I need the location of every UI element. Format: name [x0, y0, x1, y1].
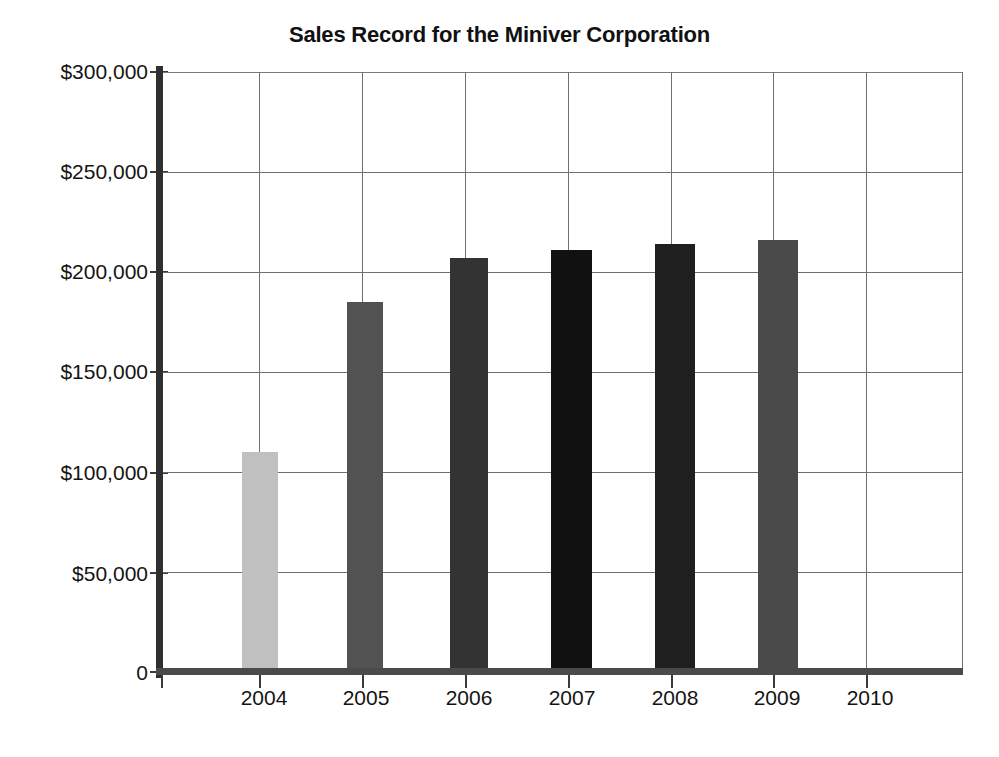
plot-area: [162, 72, 963, 672]
y-tick-label-0: 0: [0, 661, 148, 685]
y-axis-line: [156, 66, 163, 678]
y-axis-labels: $300,000 $250,000 $200,000 $150,000 $100…: [0, 0, 148, 757]
chart-title: Sales Record for the Miniver Corporation: [0, 22, 999, 48]
bar-2006: [450, 258, 488, 672]
gridline-vertical-8: [962, 72, 963, 672]
bar-2005: [347, 302, 383, 672]
bar-2004: [242, 452, 278, 672]
x-tick-label-2007: 2007: [517, 686, 627, 710]
y-tick-label-300000: $300,000: [0, 60, 148, 84]
y-tick-label-150000: $150,000: [0, 360, 148, 384]
y-tick-label-250000: $250,000: [0, 160, 148, 184]
x-tick-label-2005: 2005: [311, 686, 421, 710]
bar-2009: [758, 240, 798, 672]
y-tick-label-50000: $50,000: [0, 562, 148, 586]
bar-2007: [551, 250, 592, 672]
gridline-300000: [162, 72, 963, 73]
x-tick-label-2004: 2004: [209, 686, 319, 710]
gridline-vertical-7: [866, 72, 867, 672]
bar-2008: [655, 244, 695, 672]
x-axis-line: [156, 668, 963, 675]
x-tick-label-2006: 2006: [414, 686, 524, 710]
x-tick-label-2008: 2008: [620, 686, 730, 710]
y-tick-label-200000: $200,000: [0, 260, 148, 284]
gridline-250000: [162, 172, 963, 173]
y-tick-label-100000: $100,000: [0, 461, 148, 485]
x-tick-mark-start: [161, 675, 163, 688]
x-tick-label-2010: 2010: [815, 686, 925, 710]
bar-chart: Sales Record for the Miniver Corporation…: [0, 0, 999, 757]
